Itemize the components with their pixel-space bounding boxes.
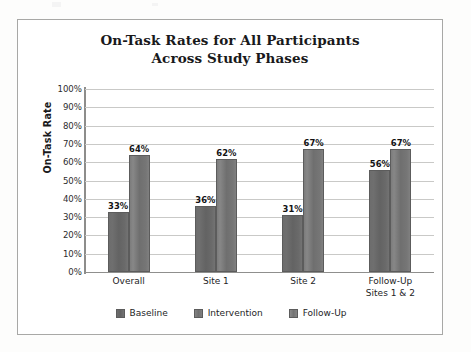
y-tick-label: 60% (36, 157, 82, 167)
bar-value-label: 31% (283, 204, 303, 214)
y-tick-label: 40% (36, 194, 82, 204)
y-tick-label: 90% (36, 102, 82, 112)
bar-value-label: 67% (304, 138, 324, 148)
scan-artifact (52, 2, 61, 7)
x-axis-label-line-2: Sites 1 & 2 (366, 288, 415, 300)
y-tick-label: 70% (36, 139, 82, 149)
legend-item-baseline[interactable]: Baseline (116, 308, 168, 318)
legend-item-intervention[interactable]: Intervention (194, 308, 263, 318)
legend-swatch-icon (289, 309, 298, 318)
y-tick-label: 20% (36, 230, 82, 240)
bar: 62% (216, 159, 237, 272)
bar-value-label: 62% (216, 148, 236, 158)
chart-frame: On-Task Rates for All Participants Acros… (17, 19, 443, 335)
gridline-100 (85, 89, 434, 90)
bar: 31% (282, 215, 303, 272)
legend-label: Follow-Up (303, 308, 347, 318)
x-axis-label-line-1: Site 1 (203, 276, 229, 286)
figure-container: On-Task Rates for All Participants Acros… (0, 0, 471, 352)
y-tick-label: 0% (36, 267, 82, 277)
x-axis-category-labels: OverallSite 1Site 2Follow-UpSites 1 & 2 (85, 276, 434, 310)
y-tick-label: 30% (36, 212, 82, 222)
gridline-90 (85, 107, 434, 108)
bar-value-label: 56% (370, 159, 390, 169)
chart-legend: BaselineInterventionFollow-Up (18, 308, 444, 318)
chart-title: On-Task Rates for All Participants Acros… (18, 31, 442, 67)
gridline-0 (85, 272, 434, 273)
bar: 33% (108, 212, 129, 272)
y-tick-label: 100% (36, 84, 82, 94)
chart-title-line-1: On-Task Rates for All Participants (100, 32, 359, 48)
x-axis-label-line-1: Overall (113, 276, 145, 286)
scan-artifact (152, 3, 158, 6)
plot-area: 33%64%36%62%31%67%56%67% (85, 89, 434, 272)
x-axis-label: Site 1 (203, 276, 229, 288)
bar: 56% (369, 170, 390, 272)
bar: 67% (303, 149, 324, 272)
y-tick-label: 10% (36, 249, 82, 259)
legend-swatch-icon (116, 309, 125, 318)
x-axis-label-line-1: Follow-Up (368, 276, 412, 286)
legend-label: Baseline (130, 308, 168, 318)
y-tick-label: 50% (36, 176, 82, 186)
bar-value-label: 36% (195, 195, 215, 205)
legend-swatch-icon (194, 309, 203, 318)
x-axis-label: Follow-UpSites 1 & 2 (366, 276, 415, 299)
legend-item-follow-up[interactable]: Follow-Up (289, 308, 347, 318)
bar-value-label: 33% (108, 201, 128, 211)
x-axis-label: Overall (113, 276, 145, 288)
y-axis-tick-labels: 100%90%80%70%60%50%40%30%20%10%0% (30, 89, 82, 272)
bar: 64% (129, 155, 150, 272)
legend-label: Intervention (208, 308, 263, 318)
bar-value-label: 67% (391, 138, 411, 148)
chart-title-line-2: Across Study Phases (18, 49, 442, 67)
bar-value-label: 64% (129, 144, 149, 154)
y-tick-label: 80% (36, 121, 82, 131)
bar: 67% (390, 149, 411, 272)
gridline-80 (85, 126, 434, 127)
bar: 36% (195, 206, 216, 272)
x-axis-label-line-1: Site 2 (290, 276, 316, 286)
x-axis-label: Site 2 (290, 276, 316, 288)
